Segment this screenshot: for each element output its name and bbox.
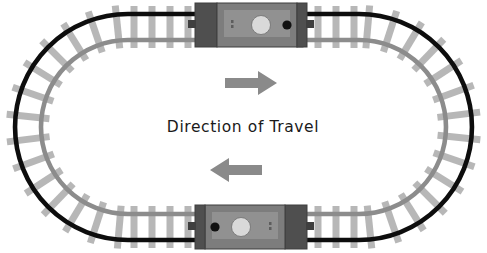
- train-track-diagram: Direction of Travel: [0, 0, 487, 253]
- train-car-bottom-marker-dot: [210, 222, 219, 231]
- train-car-top-headlight: [252, 16, 271, 35]
- train-car-bottom-rear-block: [285, 205, 307, 249]
- train-car-bottom-front-block: [195, 205, 205, 249]
- train-car-bottom-vent: [269, 227, 272, 230]
- train-car-bottom-coupler-right: [306, 222, 314, 230]
- train-car-top-marker-dot: [282, 20, 291, 29]
- train-car-top-rear-block: [195, 3, 217, 47]
- train-car-top-vent: [231, 25, 234, 28]
- train-car-bottom-coupler-left: [188, 222, 196, 230]
- direction-of-travel-label: Direction of Travel: [167, 118, 319, 136]
- track-loop-illustration: Direction of Travel: [0, 0, 487, 253]
- train-car-top-coupler-right: [306, 20, 314, 28]
- train-car-bottom[interactable]: [188, 205, 314, 249]
- train-car-bottom-headlight: [232, 218, 251, 237]
- train-car-top-coupler-left: [188, 20, 196, 28]
- train-car-top-vent: [231, 20, 234, 23]
- train-car-bottom-vent: [269, 222, 272, 225]
- train-car-top[interactable]: [188, 3, 314, 47]
- train-car-top-front-block: [297, 3, 307, 47]
